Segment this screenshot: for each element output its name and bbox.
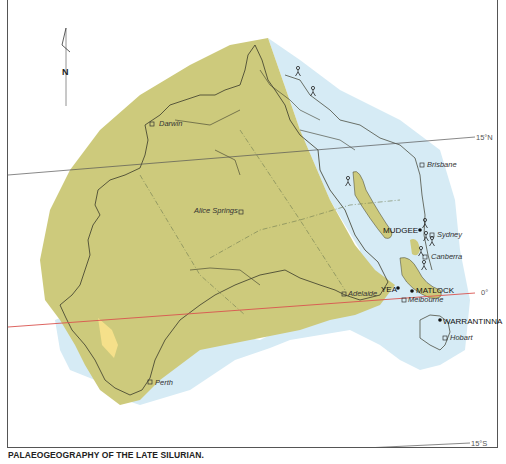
city-sydney: Sydney — [437, 230, 463, 239]
palaeogeography-map: 15°N 0° 15°S N Darwin Alice Springs Bris… — [0, 0, 506, 448]
latitude-15s-label: 15°S — [471, 439, 487, 448]
city-darwin: Darwin — [159, 119, 182, 128]
latitude-15n-label: 15°N — [476, 133, 493, 142]
site-warrantinna: WARRANTINNA — [443, 317, 503, 326]
equator-label: 0° — [481, 288, 488, 297]
city-melbourne: Melbourne — [408, 295, 443, 304]
city-hobart: Hobart — [450, 333, 473, 342]
site-mudgee: MUDGEE — [383, 226, 418, 235]
city-canberra: Canberra — [431, 252, 462, 261]
site-matlock: MATLOCK — [416, 286, 455, 295]
latitude-15s-line — [365, 443, 470, 448]
city-adelaide: Adelaide — [347, 289, 377, 298]
map-caption: PALAEOGEOGRAPHY OF THE LATE SILURIAN. — [8, 450, 204, 460]
city-brisbane: Brisbane — [427, 160, 457, 169]
city-perth: Perth — [155, 378, 173, 387]
north-label: N — [62, 67, 69, 77]
site-yea: YEA — [381, 285, 398, 294]
city-alice-springs: Alice Springs — [193, 206, 238, 215]
